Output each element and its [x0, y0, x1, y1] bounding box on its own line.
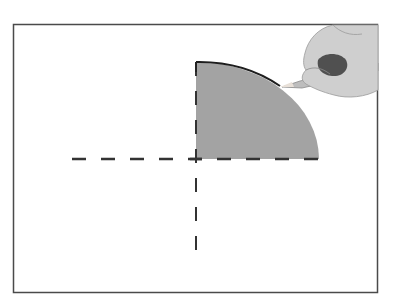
quarter-circle-diagram: [0, 0, 394, 306]
